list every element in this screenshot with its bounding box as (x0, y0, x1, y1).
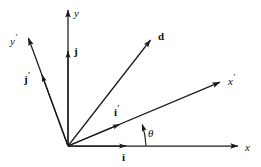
diagram-canvas (0, 0, 261, 167)
x-prime-axis-prime-mark: ′ (233, 72, 235, 82)
j-prime-vector-prime-mark: ′ (28, 70, 31, 80)
vector-diagram-figure: y x y′ x′ d i j i′ j′ θ (0, 0, 261, 167)
i-prime-vector-prime-mark: ′ (117, 103, 120, 113)
j-prime-vector-label: j′ (24, 71, 30, 85)
d-vector-label: d (158, 31, 164, 42)
theta-arc (142, 125, 146, 147)
d-vector-line (68, 40, 151, 146)
y-axis-label: y (74, 8, 79, 19)
j-vector-label: j (74, 46, 78, 57)
x-axis-label: x (245, 142, 250, 153)
x-prime-axis-label: x′ (228, 73, 235, 87)
y-prime-axis-label: y′ (10, 33, 17, 47)
j-prime-unit-vector-line (42, 75, 68, 146)
y-prime-axis-prime-mark: ′ (15, 32, 17, 42)
i-vector-label: i (122, 152, 125, 163)
theta-angle-label: θ (148, 128, 153, 139)
i-prime-vector-label: i′ (114, 104, 120, 118)
